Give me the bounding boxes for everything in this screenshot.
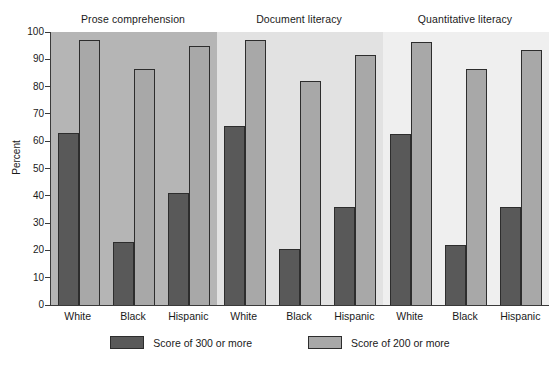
x-axis-label-prose-comprehension-white: White xyxy=(54,307,102,325)
x-axis-label-document-literacy-hispanic: Hispanic xyxy=(330,307,378,325)
y-axis-tick-label: 40 xyxy=(4,190,44,202)
panel-quantitative-literacy xyxy=(383,32,549,305)
bar-document-literacy-black-score-of-300-or-more xyxy=(279,249,300,305)
x-axis-panel-prose-comprehension: WhiteBlackHispanic xyxy=(50,307,216,325)
bar-prose-comprehension-white-score-of-200-or-more xyxy=(79,40,100,305)
bar-document-literacy-black-score-of-200-or-more xyxy=(300,81,321,305)
panel-title-strip: Prose comprehension Document literacy Qu… xyxy=(50,9,548,29)
bar-quantitative-literacy-hispanic-score-of-300-or-more xyxy=(500,207,521,305)
legend-swatch-light xyxy=(308,336,342,349)
bar-document-literacy-white-score-of-300-or-more xyxy=(224,126,245,305)
bar-prose-comprehension-black-score-of-300-or-more xyxy=(113,242,134,305)
y-axis-tick-label: 60 xyxy=(4,135,44,147)
chart-legend: Score of 300 or moreScore of 200 or more xyxy=(0,336,560,349)
bar-group-prose-comprehension-white xyxy=(55,32,103,305)
bar-group-document-literacy-hispanic xyxy=(331,32,379,305)
bar-group-document-literacy-black xyxy=(276,32,324,305)
panel-title-quantitative-literacy: Quantitative literacy xyxy=(382,9,548,29)
x-axis-label-quantitative-literacy-hispanic: Hispanic xyxy=(496,307,544,325)
plot-area xyxy=(50,32,549,306)
bar-quantitative-literacy-black-score-of-200-or-more xyxy=(466,69,487,305)
legend-label: Score of 300 or more xyxy=(153,337,252,349)
y-axis-tick-label: 10 xyxy=(4,272,44,284)
x-axis-panel-quantitative-literacy: WhiteBlackHispanic xyxy=(382,307,548,325)
x-axis-label-quantitative-literacy-white: White xyxy=(386,307,434,325)
x-axis-label-prose-comprehension-hispanic: Hispanic xyxy=(164,307,212,325)
y-axis-tick-label: 100 xyxy=(4,26,44,38)
bar-group-document-literacy-white xyxy=(221,32,269,305)
bar-document-literacy-hispanic-score-of-300-or-more xyxy=(334,207,355,305)
panel-title-document-literacy: Document literacy xyxy=(216,9,382,29)
x-axis-label-row: WhiteBlackHispanicWhiteBlackHispanicWhit… xyxy=(50,307,548,325)
y-axis-tick-label: 90 xyxy=(4,53,44,65)
panel-prose-comprehension xyxy=(51,32,217,305)
legend-label: Score of 200 or more xyxy=(351,337,450,349)
bar-document-literacy-white-score-of-200-or-more xyxy=(245,40,266,305)
bar-prose-comprehension-black-score-of-200-or-more xyxy=(134,69,155,305)
panel-document-literacy xyxy=(217,32,383,305)
legend-swatch-dark xyxy=(110,336,144,349)
y-axis-tick-label: 80 xyxy=(4,81,44,93)
bar-group-quantitative-literacy-black xyxy=(442,32,490,305)
bar-group-prose-comprehension-hispanic xyxy=(165,32,213,305)
legend-item-score-of-300-or-more: Score of 300 or more xyxy=(110,336,252,349)
x-axis-label-quantitative-literacy-black: Black xyxy=(441,307,489,325)
y-axis-tick-label: 50 xyxy=(4,163,44,175)
panel-title-prose-comprehension: Prose comprehension xyxy=(50,9,216,29)
bar-prose-comprehension-hispanic-score-of-200-or-more xyxy=(189,46,210,305)
legend-item-score-of-200-or-more: Score of 200 or more xyxy=(308,336,450,349)
y-axis-tick-label: 20 xyxy=(4,244,44,256)
bar-quantitative-literacy-black-score-of-300-or-more xyxy=(445,245,466,305)
bar-group-quantitative-literacy-white xyxy=(387,32,435,305)
y-axis-tick-layer: 0102030405060708090100 xyxy=(0,0,50,372)
y-axis-tick-label: 0 xyxy=(4,299,44,311)
bar-quantitative-literacy-hispanic-score-of-200-or-more xyxy=(521,50,542,305)
bar-chart-figure: Prose comprehension Document literacy Qu… xyxy=(0,0,560,372)
x-axis-label-prose-comprehension-black: Black xyxy=(109,307,157,325)
bar-group-quantitative-literacy-hispanic xyxy=(497,32,545,305)
bar-prose-comprehension-hispanic-score-of-300-or-more xyxy=(168,193,189,305)
bar-prose-comprehension-white-score-of-300-or-more xyxy=(58,133,79,305)
y-axis-tick-label: 30 xyxy=(4,217,44,229)
bar-document-literacy-hispanic-score-of-200-or-more xyxy=(355,55,376,305)
x-axis-label-document-literacy-white: White xyxy=(220,307,268,325)
y-axis-tick-label: 70 xyxy=(4,108,44,120)
bar-quantitative-literacy-white-score-of-200-or-more xyxy=(411,42,432,305)
bar-group-prose-comprehension-black xyxy=(110,32,158,305)
x-axis-panel-document-literacy: WhiteBlackHispanic xyxy=(216,307,382,325)
x-axis-label-document-literacy-black: Black xyxy=(275,307,323,325)
bar-quantitative-literacy-white-score-of-300-or-more xyxy=(390,134,411,305)
